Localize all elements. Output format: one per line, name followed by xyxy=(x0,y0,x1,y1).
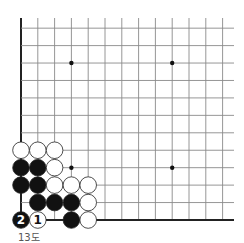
black-stone xyxy=(30,177,47,194)
diagram-caption: 13도 xyxy=(18,229,40,243)
white-stone xyxy=(46,159,63,176)
white-stone xyxy=(80,194,97,211)
white-stone xyxy=(63,177,80,194)
black-stone xyxy=(63,212,80,229)
white-stone xyxy=(13,142,30,159)
white-stone xyxy=(30,142,47,159)
star-point xyxy=(69,165,73,169)
white-stone xyxy=(46,142,63,159)
star-point xyxy=(69,61,73,65)
black-stone xyxy=(13,177,30,194)
go-board: 21 xyxy=(0,0,244,243)
move-number: 1 xyxy=(34,213,42,227)
black-stone xyxy=(30,194,47,211)
white-stone xyxy=(80,177,97,194)
black-stone xyxy=(30,159,47,176)
white-stone xyxy=(46,177,63,194)
star-point xyxy=(170,165,174,169)
black-stone xyxy=(13,159,30,176)
black-stone xyxy=(63,194,80,211)
black-stone xyxy=(46,194,63,211)
white-stone xyxy=(80,212,97,229)
move-number: 2 xyxy=(17,213,25,227)
star-point xyxy=(170,61,174,65)
